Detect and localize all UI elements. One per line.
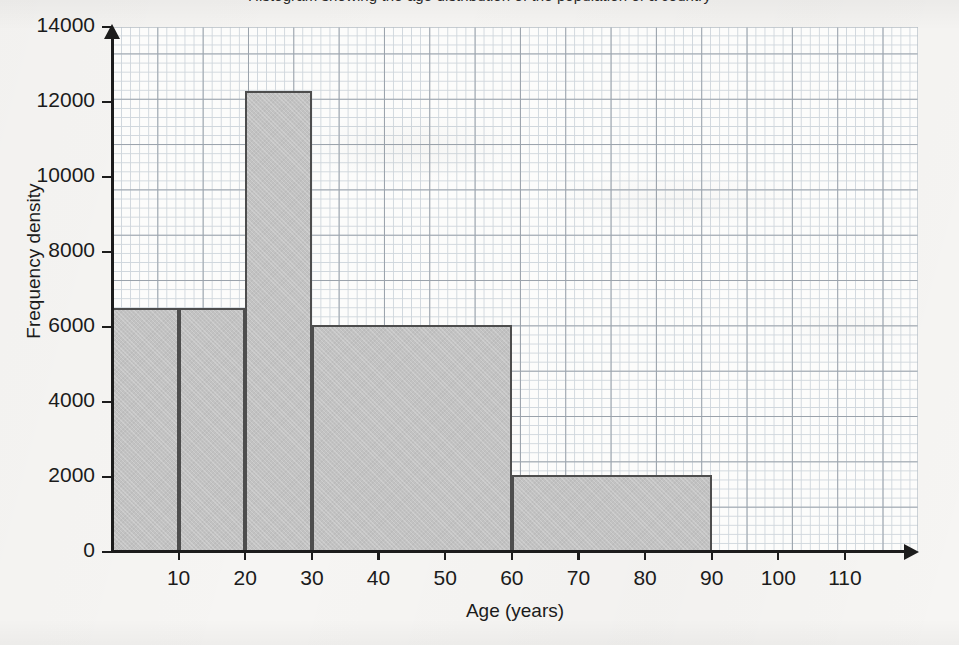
x-tick-label: 60 xyxy=(482,566,542,590)
histogram-bar xyxy=(312,325,512,552)
y-tick-mark xyxy=(102,101,112,103)
x-tick-mark xyxy=(644,551,646,560)
histogram-bar xyxy=(512,475,712,552)
y-tick-label: 12000 xyxy=(0,88,95,112)
x-axis-title: Age (years) xyxy=(112,600,918,622)
plot-area xyxy=(112,27,918,552)
y-axis-line xyxy=(111,34,114,552)
y-tick-label: 4000 xyxy=(0,388,95,412)
y-tick-mark xyxy=(102,326,112,328)
x-tick-label: 70 xyxy=(548,566,608,590)
y-tick-label: 10000 xyxy=(0,163,95,187)
x-tick-mark xyxy=(511,551,513,560)
x-tick-label: 110 xyxy=(815,566,875,590)
x-tick-label: 30 xyxy=(282,566,342,590)
y-tick-mark xyxy=(102,476,112,478)
y-tick-mark xyxy=(102,551,112,553)
x-tick-mark xyxy=(178,551,180,560)
x-tick-mark xyxy=(311,551,313,560)
x-tick-mark xyxy=(711,551,713,560)
x-tick-mark xyxy=(444,551,446,560)
chart-title: Histogram showing the age distribution o… xyxy=(0,0,959,4)
y-axis-title: Frequency density xyxy=(23,141,45,381)
x-tick-mark xyxy=(777,551,779,560)
y-tick-mark xyxy=(102,401,112,403)
x-tick-label: 40 xyxy=(349,566,409,590)
x-tick-mark xyxy=(577,551,579,560)
y-tick-mark xyxy=(102,26,112,28)
y-tick-label: 2000 xyxy=(0,463,95,487)
x-tick-mark xyxy=(844,551,846,560)
y-tick-mark xyxy=(102,176,112,178)
x-tick-label: 90 xyxy=(682,566,742,590)
histogram-bar xyxy=(245,91,312,552)
y-tick-label: 0 xyxy=(0,538,95,562)
x-tick-label: 50 xyxy=(415,566,475,590)
x-tick-label: 100 xyxy=(748,566,808,590)
histogram-figure: Histogram showing the age distribution o… xyxy=(0,0,959,645)
x-tick-label: 80 xyxy=(615,566,675,590)
y-tick-label: 8000 xyxy=(0,238,95,262)
x-tick-mark xyxy=(377,551,379,560)
histogram-bar xyxy=(179,308,246,552)
histogram-bar xyxy=(112,308,179,552)
x-tick-mark xyxy=(244,551,246,560)
x-axis-arrow-icon xyxy=(904,544,919,560)
y-tick-label: 6000 xyxy=(0,313,95,337)
x-tick-label: 10 xyxy=(149,566,209,590)
y-tick-mark xyxy=(102,251,112,253)
x-tick-label: 20 xyxy=(215,566,275,590)
y-tick-label: 14000 xyxy=(0,13,95,37)
